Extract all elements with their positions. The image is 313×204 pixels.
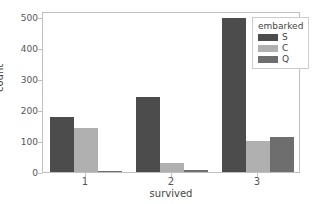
- legend-swatch-icon: [258, 34, 278, 41]
- y-axis-label: count: [0, 64, 5, 92]
- bar-2-Q: [184, 170, 208, 172]
- bar-2-S: [136, 97, 160, 172]
- y-tick-label: 300: [0, 75, 38, 85]
- legend-label: S: [282, 33, 288, 42]
- bar-1-C: [74, 128, 98, 172]
- y-tick-label: 0: [0, 168, 38, 178]
- legend-item-Q: Q: [258, 55, 303, 64]
- y-tick-label: 500: [0, 13, 38, 23]
- x-tick-mark: [85, 173, 86, 177]
- legend-title: embarked: [258, 21, 303, 31]
- bar-3-S: [222, 18, 246, 172]
- y-tick-label: 400: [0, 44, 38, 54]
- bar-1-S: [50, 117, 74, 172]
- x-tick-label: 1: [82, 176, 88, 187]
- bar-3-Q: [270, 137, 294, 172]
- bar-2-C: [160, 163, 184, 172]
- legend-label: C: [282, 44, 288, 53]
- bar-1-Q: [98, 171, 122, 172]
- x-tick-label: 2: [168, 176, 174, 187]
- y-tick-mark: [38, 173, 42, 174]
- x-tick-label: 3: [254, 176, 260, 187]
- legend-swatch-icon: [258, 45, 278, 52]
- y-tick-label: 200: [0, 106, 38, 116]
- legend: embarked SCQ: [252, 17, 309, 69]
- y-tick-label: 100: [0, 137, 38, 147]
- legend-label: Q: [282, 55, 289, 64]
- x-tick-mark: [257, 173, 258, 177]
- chart-figure: 0100200300400500 count 123 survived emba…: [0, 0, 313, 204]
- legend-swatch-icon: [258, 56, 278, 63]
- legend-entries: SCQ: [258, 33, 303, 64]
- x-tick-mark: [171, 173, 172, 177]
- legend-item-S: S: [258, 33, 303, 42]
- legend-item-C: C: [258, 44, 303, 53]
- bar-3-C: [246, 141, 270, 172]
- x-axis-label: survived: [42, 188, 300, 199]
